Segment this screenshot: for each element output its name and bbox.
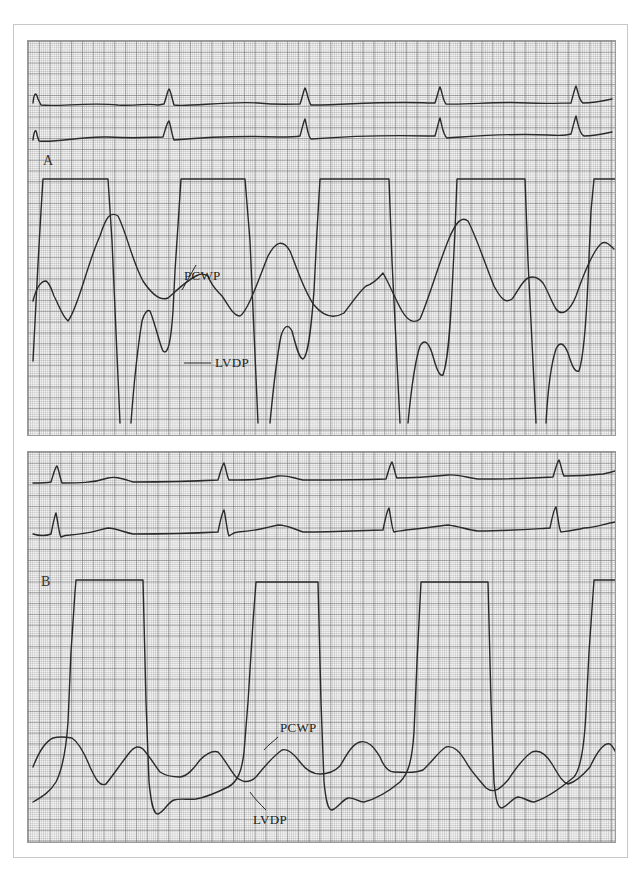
pcwp-leader-b [264,737,278,750]
lvdp-trace-a [33,179,616,423]
panel-a: A PCWP LVDP [27,40,616,436]
lvdp-trace-b [33,580,616,814]
ecg-lower-trace-b [33,507,615,537]
ecg-lower-trace [33,116,612,141]
ecg-upper-trace [33,86,612,105]
panel-a-traces [28,41,616,436]
pcwp-label-b: PCWP [280,720,317,736]
lvdp-label-b: LVDP [253,812,287,828]
lvdp-label-a: LVDP [215,355,249,371]
panel-b-traces [28,452,616,843]
pcwp-label-a: PCWP [184,268,221,284]
ecg-upper-trace-b [33,460,615,483]
lvdp-leader-b [250,792,266,810]
panel-b: B PCWP LVDP [27,451,616,843]
panel-label-b: B [41,574,50,590]
panel-label-a: A [43,153,53,169]
